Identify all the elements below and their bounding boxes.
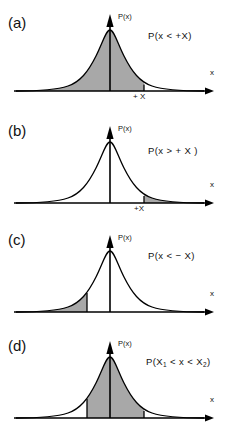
x-axis-arrowhead-b (205, 199, 214, 206)
x-axis-label-c: x (210, 289, 214, 298)
panel-letter-a: (a) (8, 14, 26, 31)
probability-label-b: P(x > + X ) (148, 145, 198, 156)
panel-c: (c) P(x) P(x < − X) x (0, 215, 232, 323)
panel-c-plot (0, 215, 232, 323)
p-axis-arrowhead-c (106, 235, 113, 248)
p-axis-label-d: P(x) (118, 339, 132, 348)
panel-a: (a) P(x) P(x < +X) x + X (0, 0, 232, 108)
panel-b-plot (0, 108, 232, 216)
panel-letter-b: (b) (8, 122, 26, 139)
x-axis-arrowhead-c (205, 308, 214, 315)
panel-b: (b) P(x) P(x > + X ) x +X (0, 108, 232, 216)
probability-label-c: P(x < − X) (148, 250, 195, 261)
tick-label-plus-x-b: +X (134, 204, 144, 213)
probability-figure: (a) P(x) P(x < +X) x + X (b) P(x) P(x > … (0, 0, 232, 431)
probability-label-a: P(x < +X) (148, 30, 192, 41)
p-axis-label-b: P(x) (118, 124, 132, 133)
p-axis-label-c: P(x) (118, 233, 132, 242)
p-axis-label-a: P(x) (118, 12, 132, 21)
p-axis-arrowhead-d (106, 341, 113, 354)
prob-d-middle: < x < X (167, 356, 203, 367)
panel-d-plot (0, 322, 232, 431)
p-axis-arrowhead-b (106, 126, 113, 139)
x-axis-arrowhead-d (205, 414, 214, 421)
x-axis-arrowhead-a (205, 87, 214, 94)
p-axis-arrowhead-a (106, 14, 113, 27)
x-axis-label-a: x (210, 68, 214, 77)
panel-a-plot (0, 0, 232, 108)
panel-letter-c: (c) (8, 231, 26, 248)
panel-d: (d) P(x) P(X1 < x < X2) x (0, 322, 232, 430)
prob-d-prefix: P(X (146, 356, 163, 367)
tick-label-plus-x-a: + X (133, 92, 145, 101)
x-axis-label-b: x (210, 180, 214, 189)
prob-d-sub2: 2 (203, 361, 207, 368)
x-axis-label-d: x (210, 395, 214, 404)
panel-letter-d: (d) (8, 337, 26, 354)
probability-label-d: P(X1 < x < X2) (146, 356, 211, 367)
prob-d-sub1: 1 (163, 361, 167, 368)
prob-d-suffix: ) (207, 356, 211, 367)
